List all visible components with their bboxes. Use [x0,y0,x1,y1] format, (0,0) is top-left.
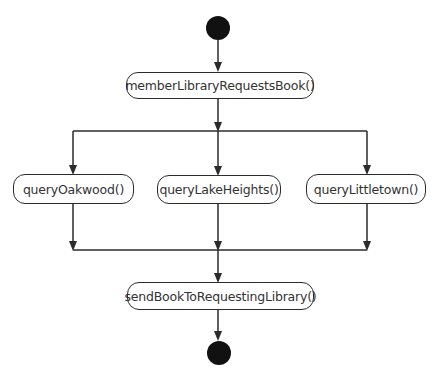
initial-node [206,16,230,40]
action-label: queryLakeHeights() [159,182,278,197]
action-query-littletown: queryLittletown() [306,174,426,204]
action-label: queryLittletown() [314,182,419,197]
action-label: memberLibraryRequestsBook() [125,78,314,93]
action-label: queryOakwood() [23,182,124,197]
action-send-book-to-requesting-library: sendBookToRequestingLibrary() [127,282,314,310]
action-query-lake-heights: queryLakeHeights() [157,175,281,204]
action-query-oakwood: queryOakwood() [13,174,134,204]
final-node [207,341,231,365]
action-label: sendBookToRequestingLibrary() [124,289,316,304]
action-member-library-requests-book: memberLibraryRequestsBook() [126,72,314,99]
